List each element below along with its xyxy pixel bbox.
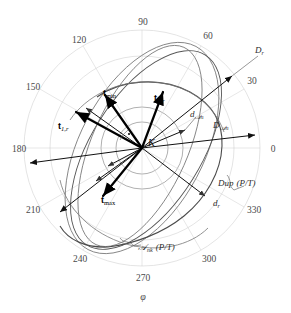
vector-label-t-2r: t2,r [154,93,165,104]
annotation-Aenk-suffix: (P/T) [156,242,175,252]
tick-label-300: 300 [202,254,217,264]
tick-label-120: 120 [72,35,87,45]
tick-label-150: 150 [26,82,41,92]
axis-D-r [60,56,258,212]
annotation-d-Aen: d𝒜n [190,109,204,120]
tick-label-180: 180 [12,144,27,154]
center-label-K: K [147,137,156,148]
vector-label-t-1r-sub: 1,r [61,125,69,132]
annotation-Dup-suffix: (P/T) [237,178,256,188]
annotation-Dup-base: Dup [217,178,234,188]
vector-label-t-1r: t1,r [58,121,69,132]
tick-label-210: 210 [26,205,41,215]
annotation-d-r-sub: r [218,203,221,209]
stub-arrow-upper-left [86,108,142,148]
tick-label-240: 240 [73,254,88,264]
tick-label-0: 0 [271,144,276,154]
vector-label-t-2r-sub: 2,r [157,97,165,104]
tick-label-90: 90 [138,17,148,27]
angle-dot [128,133,130,135]
annotation-d-r: dr [213,198,221,209]
polar-vector-diagram: 0 30 60 90 120 150 180 210 240 270 300 3… [0,0,291,313]
annotation-D-r: Dr [254,45,265,56]
tick-label-60: 60 [203,31,213,41]
axis-variable-phi: φ [140,291,146,302]
tick-label-330: 330 [247,205,262,215]
annotation-Aenk: 𝒜nk(P/T) [138,242,175,253]
annotation-Aenk-sub: nk [147,247,153,253]
axis-D-Aen-right [142,135,255,148]
axis-D-r-leader [232,56,258,76]
annotation-D-r-sub: r [262,50,265,56]
vector-t-1r [76,112,142,148]
annotation-d-Aen-sub: 𝒜n [195,114,204,120]
annotation-D-Aen: D𝒜n [212,120,229,131]
vector-label-t-max-sub: max [104,199,116,206]
arc-lower-left [60,226,108,247]
ellipse-inner [40,26,252,274]
annotation-Dup: Dup(P/T) [217,178,256,188]
tick-label-270: 270 [136,273,151,283]
diagram-canvas: 0 30 60 90 120 150 180 210 240 270 300 3… [0,0,291,313]
vector-label-t-min-sub: min [106,92,117,99]
annotation-D-Aen-sub: 𝒜n [220,125,229,131]
tick-label-30: 30 [247,76,257,86]
